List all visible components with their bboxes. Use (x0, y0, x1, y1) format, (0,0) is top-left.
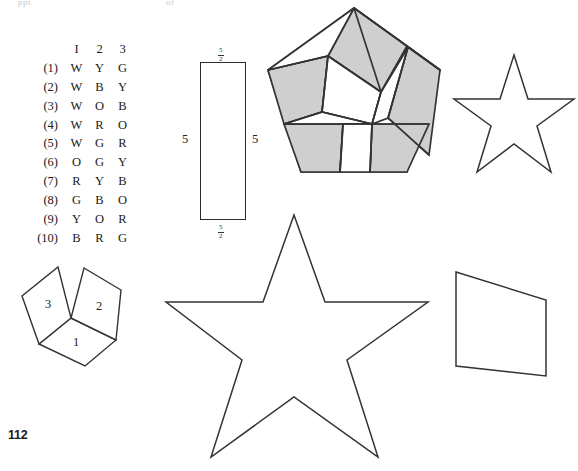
cell-col3: G (111, 59, 134, 78)
rhombus-label-1: 1 (73, 335, 79, 349)
row-label: (1) (20, 59, 65, 78)
cell-col3: B (111, 97, 134, 116)
cell-col2: B (88, 192, 111, 211)
large-five-pointed-star-figure (162, 212, 434, 470)
cell-col1: O (65, 154, 88, 173)
pentagon-shaded-piece-bottom-left (284, 124, 343, 172)
cell-col1: W (65, 97, 88, 116)
cell-col2: Y (88, 59, 111, 78)
row-label: (6) (20, 154, 65, 173)
running-head-right: of (166, 0, 175, 7)
row-label: (2) (20, 78, 65, 97)
cell-col3: Y (111, 154, 134, 173)
table-row: (10) B R G (20, 229, 134, 248)
leaning-quadrilateral-figure (444, 258, 572, 382)
row-label: (8) (20, 192, 65, 211)
cell-col2: Y (88, 173, 111, 192)
rectangle-right-length-label: 5 (252, 132, 258, 147)
labelled-rectangle-figure: 5 2 5 2 5 5 (178, 44, 268, 240)
cell-col3: R (111, 210, 134, 229)
cell-col2: B (88, 78, 111, 97)
cell-col2: R (88, 116, 111, 135)
table-row: (7) R Y B (20, 173, 134, 192)
cell-col3: Y (111, 78, 134, 97)
cell-col3: G (111, 229, 134, 248)
cell-col1: W (65, 78, 88, 97)
dissected-pentagon-figure (262, 2, 446, 188)
column-header-blank (20, 40, 65, 59)
table-row: (3) W O B (20, 97, 134, 116)
row-label: (3) (20, 97, 65, 116)
rectangle-left-length-label: 5 (182, 132, 188, 147)
rhombus-label-3: 3 (45, 297, 51, 311)
row-label: (5) (20, 135, 65, 154)
rectangle-outline (200, 62, 246, 220)
table-row: (1) W Y G (20, 59, 134, 78)
small-star-outline (454, 55, 574, 172)
cell-col3: O (111, 116, 134, 135)
cell-col2: G (88, 135, 111, 154)
cell-col2: O (88, 97, 111, 116)
cell-col2: R (88, 229, 111, 248)
rhombus-label-2: 2 (96, 299, 102, 313)
column-header-2: 2 (88, 40, 111, 59)
rectangle-top-length-label: 5 2 (218, 47, 224, 63)
table-row: (2) W B Y (20, 78, 134, 97)
fraction-denominator: 2 (218, 56, 224, 64)
row-label: (9) (20, 210, 65, 229)
row-label: (10) (20, 229, 65, 248)
pentagon-white-piece-bottom-center (340, 124, 372, 172)
row-label: (4) (20, 116, 65, 135)
cell-col1: W (65, 116, 88, 135)
table-row: (4) W R O (20, 116, 134, 135)
large-star-outline (166, 215, 428, 457)
cell-col3: B (111, 173, 134, 192)
cell-col1: W (65, 59, 88, 78)
three-rhombi-figure: 1 2 3 (6, 252, 138, 370)
small-five-pointed-star-figure (452, 52, 576, 182)
cell-col2: G (88, 154, 111, 173)
cell-col1: B (65, 229, 88, 248)
page-number: 112 (8, 428, 28, 442)
cell-col2: O (88, 210, 111, 229)
column-header-3: 3 (111, 40, 134, 59)
cell-col1: Y (65, 210, 88, 229)
table-row: (9) Y O R (20, 210, 134, 229)
table-row: (6) O G Y (20, 154, 134, 173)
table-row: (8) G B O (20, 192, 134, 211)
cell-col3: R (111, 135, 134, 154)
cell-col1: W (65, 135, 88, 154)
cell-col3: O (111, 192, 134, 211)
cell-col1: G (65, 192, 88, 211)
quadrilateral-outline (456, 272, 546, 376)
table-header-row: I 2 3 (20, 40, 134, 59)
cell-col1: R (65, 173, 88, 192)
scanned-page: ppt of I 2 3 (1) W Y G (2) W B Y (0, 0, 578, 471)
running-head-left: ppt (18, 0, 31, 7)
table-row: (5) W G R (20, 135, 134, 154)
column-header-1: I (65, 40, 88, 59)
color-code-table: I 2 3 (1) W Y G (2) W B Y (3) W O B (20, 40, 134, 248)
row-label: (7) (20, 173, 65, 192)
